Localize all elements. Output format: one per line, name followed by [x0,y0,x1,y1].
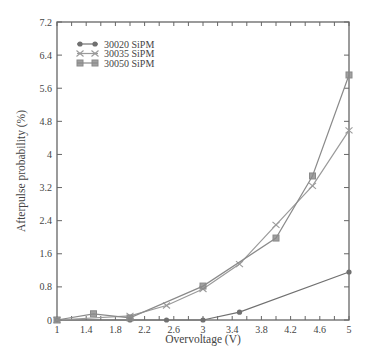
y-tick-label: 3.2 [40,182,53,193]
series-30050-sipm [54,72,352,323]
x-marker [309,183,316,189]
y-axis-title: Afterpulse probability (%) [15,110,28,232]
x-tick-label: 2.2 [138,324,151,335]
y-tick-label: 4.8 [40,116,53,127]
plot-border [57,22,349,320]
y-tick-label: 0.8 [40,281,53,292]
x-tick-label: 1.8 [109,324,122,335]
circle-marker [92,41,97,46]
circle-marker [237,310,242,315]
legend: 30020 SiPM30035 SiPM30050 SiPM [77,39,155,69]
series-layer [54,72,353,323]
plot-frame [57,22,349,320]
y-tick-label: 4 [47,149,52,160]
square-marker [310,173,316,179]
y-tick-label: 0 [47,315,52,326]
line-chart: 11.41.82.22.633.43.84.24.65 00.81.62.43.… [0,0,369,364]
x-tick-label: 1.4 [80,324,93,335]
x-tick-label: 5 [347,324,352,335]
x-tick-label: 3.8 [255,324,268,335]
x-tick-label: 4.6 [314,324,327,335]
square-marker [273,235,279,241]
legend-item: 30050 SiPM [77,58,154,69]
x-tick-label: 1 [55,324,60,335]
y-tick-label: 1.6 [40,248,53,259]
circle-marker [77,41,82,46]
legend-label: 30050 SiPM [104,58,154,69]
y-tick-label: 5.6 [40,83,53,94]
square-marker [200,283,206,289]
series-30035-sipm [54,127,353,323]
chart: 11.41.82.22.633.43.84.24.65 00.81.62.43.… [0,0,369,364]
square-marker [346,72,352,78]
y-tick-label: 6.4 [40,50,53,61]
square-marker [91,311,97,317]
series-line [57,130,349,320]
square-marker [127,315,133,321]
x-marker [273,222,280,228]
x-tick-label: 4.2 [284,324,297,335]
square-marker [54,317,60,323]
square-marker [92,60,98,66]
square-marker [77,60,83,66]
circle-marker [200,317,205,322]
y-tick-label: 2.4 [40,215,53,226]
circle-marker [164,317,169,322]
x-axis-title: Overvoltage (V) [165,333,241,346]
y-tick-label: 7.2 [40,17,53,28]
series-line [57,272,349,320]
circle-marker [346,269,351,274]
